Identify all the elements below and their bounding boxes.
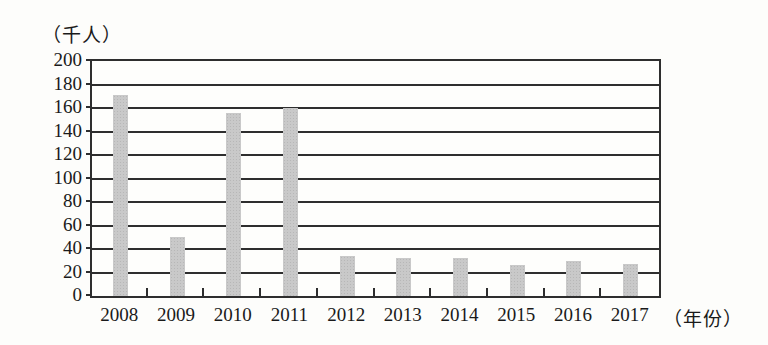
gridline-120 — [92, 154, 659, 156]
y-tick-label-180: 180 — [36, 74, 82, 94]
x-tick-mark-1 — [146, 288, 148, 296]
bar-2009 — [170, 237, 185, 296]
y-tick-mark-0 — [86, 294, 91, 296]
x-axis-unit-label: （年份） — [663, 304, 743, 331]
y-tick-label-20: 20 — [36, 262, 82, 282]
x-tick-mark-2 — [202, 288, 204, 296]
gridline-80 — [92, 201, 659, 203]
bar-2017 — [623, 264, 638, 296]
x-tick-mark-3 — [259, 288, 261, 296]
y-axis-unit-label: （千人） — [42, 20, 122, 47]
x-tick-label-2016: 2016 — [554, 304, 592, 326]
x-tick-mark-9 — [599, 288, 601, 296]
y-tick-label-140: 140 — [36, 121, 82, 141]
x-tick-label-2009: 2009 — [157, 304, 195, 326]
x-tick-label-2013: 2013 — [384, 304, 422, 326]
gridline-180 — [92, 84, 659, 86]
x-tick-label-2011: 2011 — [271, 304, 308, 326]
y-tick-label-40: 40 — [36, 238, 82, 258]
x-tick-mark-7 — [486, 288, 488, 296]
bar-2014 — [453, 258, 468, 296]
y-tick-label-120: 120 — [36, 144, 82, 164]
bar-2012 — [340, 256, 355, 296]
bar-2016 — [566, 261, 581, 296]
bar-2011 — [283, 108, 298, 296]
bar-2010 — [226, 113, 241, 296]
x-tick-mark-8 — [543, 288, 545, 296]
y-tick-mark-80 — [86, 200, 91, 202]
x-tick-label-2014: 2014 — [441, 304, 479, 326]
x-tick-label-2008: 2008 — [100, 304, 138, 326]
x-tick-label-2015: 2015 — [497, 304, 535, 326]
y-tick-label-0: 0 — [36, 285, 82, 305]
y-tick-label-200: 200 — [36, 50, 82, 70]
gridline-160 — [92, 107, 659, 109]
y-tick-label-80: 80 — [36, 191, 82, 211]
y-tick-label-160: 160 — [36, 97, 82, 117]
x-tick-label-2012: 2012 — [327, 304, 365, 326]
y-tick-mark-140 — [86, 130, 91, 132]
y-tick-mark-180 — [86, 83, 91, 85]
gridline-100 — [92, 178, 659, 180]
gridline-140 — [92, 131, 659, 133]
x-tick-mark-5 — [373, 288, 375, 296]
y-tick-mark-40 — [86, 247, 91, 249]
x-tick-label-2017: 2017 — [611, 304, 649, 326]
gridline-60 — [92, 225, 659, 227]
y-tick-mark-160 — [86, 106, 91, 108]
bar-2008 — [113, 95, 128, 296]
y-tick-label-60: 60 — [36, 215, 82, 235]
y-tick-mark-20 — [86, 271, 91, 273]
y-tick-mark-120 — [86, 153, 91, 155]
bar-chart-figure: （千人） 02040608010012014016018020020082009… — [0, 0, 768, 345]
y-tick-mark-100 — [86, 177, 91, 179]
y-tick-mark-60 — [86, 224, 91, 226]
x-tick-label-2010: 2010 — [214, 304, 252, 326]
x-tick-mark-6 — [429, 288, 431, 296]
y-tick-label-100: 100 — [36, 168, 82, 188]
x-tick-mark-4 — [316, 288, 318, 296]
bar-2013 — [396, 258, 411, 296]
y-tick-mark-200 — [86, 59, 91, 61]
bar-2015 — [510, 265, 525, 296]
plot-area — [90, 59, 661, 298]
